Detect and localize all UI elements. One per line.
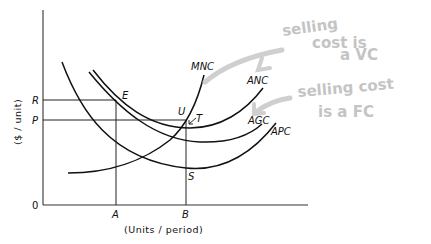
x-tick-a: A [111, 209, 119, 220]
x-tick-b: B [182, 209, 189, 220]
point-u-label: U [178, 106, 186, 117]
axes [43, 10, 308, 205]
cost-curves-diagram: R P 0 A B (Units / period) ($ / unit) E … [0, 0, 431, 244]
t-pointer-arrow [189, 118, 196, 124]
point-s-label: S [188, 171, 195, 182]
agc-curve [89, 72, 262, 142]
agc-label: AGC [247, 115, 270, 126]
origin-label: 0 [32, 200, 38, 211]
note1-line3: a VC [340, 46, 378, 64]
y-tick-p: P [32, 115, 39, 126]
anc-curve [93, 70, 263, 128]
note2-line1: selling cost [297, 75, 395, 101]
y-tick-r: R [32, 95, 39, 106]
y-axis-title: ($ / unit) [12, 99, 23, 145]
curves [62, 62, 276, 173]
x-axis-title: (Units / period) [124, 224, 203, 235]
point-t-label: T [196, 113, 203, 124]
apc-label: APC [270, 126, 291, 137]
note2-line2: is a FC [318, 103, 374, 121]
point-e-label: E [122, 90, 129, 101]
handwritten-note-fixed-cost: selling cost is a FC [254, 75, 394, 121]
anc-label: ANC [246, 75, 268, 86]
mnc-curve [68, 75, 204, 173]
mnc-label: MNC [191, 61, 214, 72]
note2-arrow-icon [256, 98, 290, 112]
note1-arrow-icon [205, 50, 282, 82]
handwritten-note-variable-cost: selling cost is a VC [205, 14, 378, 82]
guide-lines [43, 100, 186, 205]
